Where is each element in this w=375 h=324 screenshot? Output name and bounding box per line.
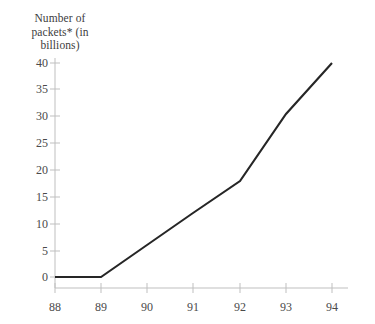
line-chart: Number of packets* (in billions) 40 35 3…	[0, 0, 375, 324]
data-series-line	[55, 63, 332, 277]
plot-area	[0, 0, 375, 324]
